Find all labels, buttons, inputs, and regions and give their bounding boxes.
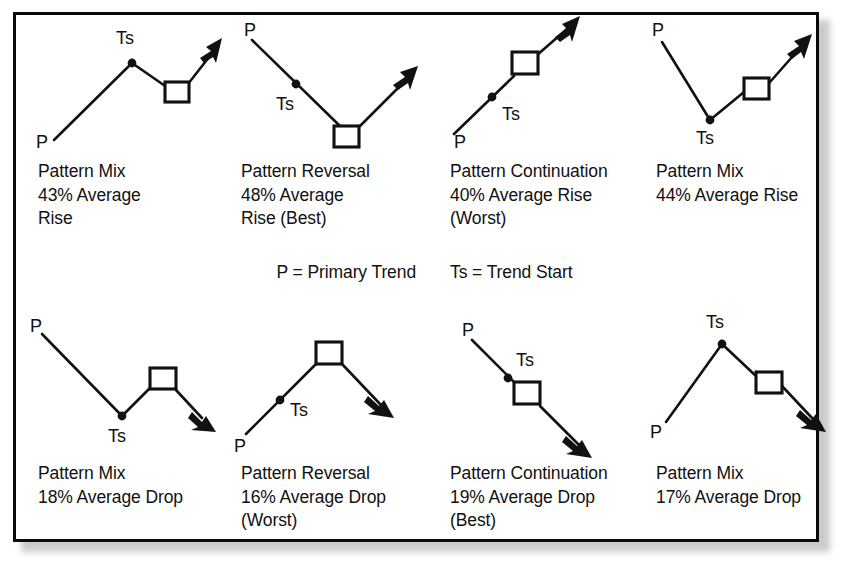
label-p-top-3: P (454, 132, 466, 152)
diagram-top-2: P Ts (238, 22, 438, 157)
label-ts-bottom-3: Ts (516, 350, 534, 370)
label-ts-top-3: Ts (502, 104, 520, 124)
figure-root: Ts P P Ts Ts P (0, 0, 849, 572)
label-p-top-2: P (244, 20, 256, 40)
caption-bottom-4: Pattern Mix 17% Average Drop (656, 462, 849, 509)
legend-row: P = Primary TrendTs = Trend Start (0, 262, 849, 283)
legend-trend-start: Ts = Trend Start (450, 262, 572, 283)
panels-layer: Ts P P Ts Ts P (0, 0, 849, 572)
label-p-bottom-3: P (462, 320, 474, 340)
caption-bottom-1: Pattern Mix 18% Average Drop (38, 462, 238, 509)
diagram-bottom-4: Ts P (640, 320, 840, 460)
label-p-bottom-1: P (30, 316, 42, 336)
diagram-bottom-1: P Ts (24, 320, 224, 460)
caption-bottom-3: Pattern Continuation 19% Average Drop (B… (450, 462, 660, 533)
label-ts-top-1: Ts (116, 28, 134, 48)
caption-top-1: Pattern Mix 43% Average Rise (38, 160, 228, 231)
label-ts-top-4: Ts (696, 128, 714, 148)
label-p-top-1: P (36, 132, 48, 152)
caption-bottom-2: Pattern Reversal 16% Average Drop (Worst… (241, 462, 446, 533)
caption-top-4: Pattern Mix 44% Average Rise (656, 160, 849, 207)
label-p-bottom-4: P (650, 422, 662, 442)
legend-primary-trend: P = Primary Trend (277, 262, 417, 283)
label-ts-top-2: Ts (276, 94, 294, 114)
caption-top-2: Pattern Reversal 48% Average Rise (Best) (241, 160, 441, 231)
diagram-top-3: Ts P (440, 18, 640, 153)
diagram-bottom-2: Ts P (232, 330, 432, 465)
label-p-bottom-2: P (234, 436, 246, 456)
label-ts-bottom-2: Ts (290, 400, 308, 420)
diagram-top-1: Ts P (28, 22, 228, 157)
label-p-top-4: P (652, 20, 664, 40)
diagram-bottom-3: P Ts (450, 322, 650, 462)
label-ts-bottom-4: Ts (706, 312, 724, 332)
caption-top-3: Pattern Continuation 40% Average Rise (W… (450, 160, 660, 231)
diagram-top-4: P Ts (640, 20, 840, 155)
label-ts-bottom-1: Ts (108, 426, 126, 446)
